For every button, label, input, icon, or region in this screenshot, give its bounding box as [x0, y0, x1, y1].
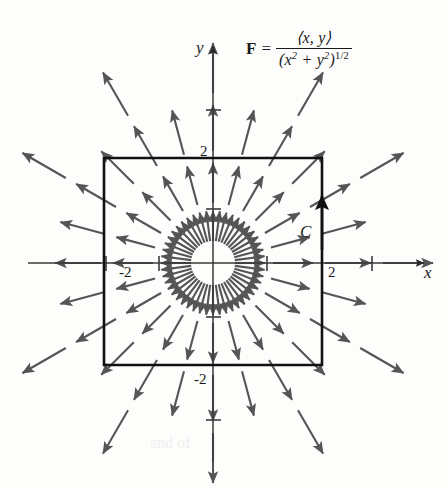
field-arrow — [163, 315, 183, 350]
field-arrow — [255, 192, 283, 220]
field-arrow — [360, 153, 403, 178]
field-arrow — [22, 348, 65, 373]
formula-F-symbol: F — [246, 39, 256, 59]
field-arrow — [142, 192, 170, 220]
x-tick-label-pos2: 2 — [328, 264, 336, 281]
field-arrow — [269, 126, 292, 166]
field-arrow — [187, 166, 197, 205]
field-arrow — [310, 184, 350, 207]
field-arrow — [116, 237, 155, 247]
field-arrow — [101, 342, 134, 375]
y-axis-label: y — [196, 38, 204, 58]
formula-equals: = — [261, 39, 271, 59]
field-arrow — [292, 342, 325, 375]
field-arrow — [103, 72, 128, 115]
vector-field-figure — [0, 0, 448, 489]
field-arrow — [76, 319, 116, 342]
field-arrow — [229, 166, 239, 205]
formula-denominator: (x2 + y2)1/2 — [276, 49, 352, 69]
formula-den-mid: + y — [297, 52, 324, 69]
x-tick-label-neg2: -2 — [119, 264, 132, 281]
field-arrow — [229, 321, 239, 360]
formula-den-base: (x — [279, 52, 292, 69]
field-arrow — [298, 410, 323, 453]
field-arrow — [187, 321, 197, 360]
field-arrow — [163, 176, 183, 211]
field-arrow — [298, 72, 323, 115]
field-arrow — [292, 151, 325, 184]
field-formula: F = ⟨x, y⟩ (x2 + y2)1/2 — [246, 28, 352, 70]
field-arrow — [60, 222, 104, 234]
y-tick-label-neg2: -2 — [194, 371, 207, 388]
field-arrow — [101, 151, 134, 184]
coordinate-axes — [28, 46, 424, 462]
x-axis-label: x — [424, 263, 432, 283]
field-arrow — [321, 292, 365, 304]
field-arrow — [242, 110, 254, 154]
field-arrow — [172, 371, 184, 415]
field-arrow — [76, 184, 116, 207]
formula-numerator: ⟨x, y⟩ — [290, 28, 337, 48]
field-arrow — [172, 110, 184, 154]
field-arrow — [126, 213, 161, 233]
field-arrow — [126, 293, 161, 313]
field-arrow — [60, 292, 104, 304]
field-arrow — [103, 410, 128, 453]
field-arrow — [243, 315, 263, 350]
field-arrow — [265, 293, 300, 313]
field-arrow — [271, 279, 310, 289]
field-arrow — [134, 126, 157, 166]
curve-C-label: C — [300, 222, 311, 242]
field-arrow — [242, 371, 254, 415]
field-arrow — [142, 305, 170, 333]
field-arrow — [360, 348, 403, 373]
field-arrow — [243, 176, 263, 211]
field-arrow — [321, 222, 365, 234]
field-arrow — [265, 213, 300, 233]
field-arrow — [255, 305, 283, 333]
field-arrow — [22, 153, 65, 178]
field-arrow — [310, 319, 350, 342]
formula-outer-exponent: 1/2 — [335, 50, 349, 61]
y-tick-label-pos2: 2 — [200, 143, 208, 160]
formula-fraction: ⟨x, y⟩ (x2 + y2)1/2 — [276, 28, 352, 70]
